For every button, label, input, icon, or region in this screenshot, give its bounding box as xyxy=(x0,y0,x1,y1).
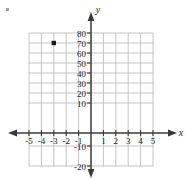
y-axis-tick-labels: 80 70 60 50 40 30 20 10 -10 -20 xyxy=(74,29,87,172)
ylabel-40: 40 xyxy=(77,69,87,79)
xlabel-4: 4 xyxy=(138,136,143,146)
ylabel--20: -20 xyxy=(74,162,86,172)
y-axis xyxy=(88,12,95,178)
y-axis-arrow-up xyxy=(88,12,95,21)
xlabel--4: -4 xyxy=(38,136,46,146)
ylabel-20: 20 xyxy=(77,89,87,99)
ylabel-50: 50 xyxy=(77,59,87,69)
data-point-marker xyxy=(52,41,56,45)
xlabel-3: 3 xyxy=(126,136,131,146)
ylabel-30: 30 xyxy=(77,79,87,89)
x-axis-arrow-left xyxy=(8,130,17,137)
x-axis-name-label: x xyxy=(178,127,184,138)
coordinate-plane-graph: 80 70 60 50 40 30 20 10 -10 -20 -5 -4 -3… xyxy=(0,0,187,178)
xlabel--5: -5 xyxy=(25,136,33,146)
graph-canvas: 80 70 60 50 40 30 20 10 -10 -20 -5 -4 -3… xyxy=(0,0,187,178)
ylabel-80: 80 xyxy=(77,29,87,39)
xlabel--2: -2 xyxy=(62,136,70,146)
x-axis-arrow-right xyxy=(168,130,177,137)
ylabel-60: 60 xyxy=(77,49,87,59)
ylabel-70: 70 xyxy=(77,39,87,49)
xlabel--1: -1 xyxy=(75,136,83,146)
ylabel-10: 10 xyxy=(77,99,87,109)
xlabel-2: 2 xyxy=(114,136,119,146)
y-axis-name-label: y xyxy=(95,4,101,15)
y-axis-arrow-down xyxy=(88,169,95,178)
xlabel-1: 1 xyxy=(101,136,106,146)
xlabel-5: 5 xyxy=(151,136,156,146)
xlabel--3: -3 xyxy=(50,136,58,146)
